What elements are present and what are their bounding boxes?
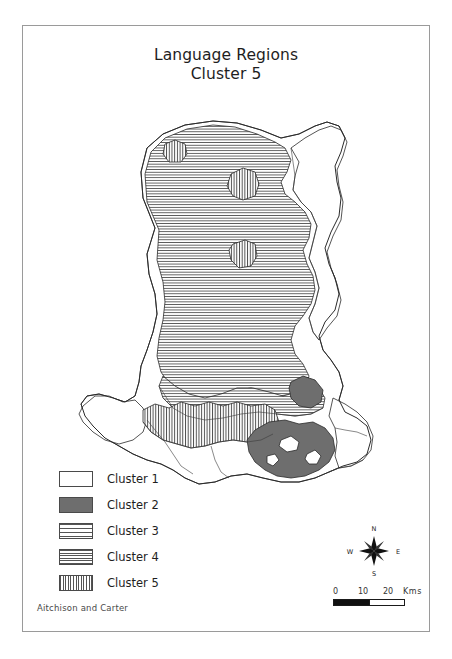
compass-label-east: E [396,548,400,556]
scale-tick-0: 0 [333,587,338,596]
scale-unit-label: Kms [403,587,422,596]
scale-tick-10: 10 [358,587,368,596]
map-legend: Cluster 1 Cluster 2 Cluster 3 Cluster 4 … [59,468,159,598]
compass-rose-icon: N S E W [343,518,405,580]
map-area-south-east-lowland [329,398,373,468]
legend-swatch-cluster-4 [59,549,93,565]
map-credit: Aitchison and Carter [37,603,128,613]
scale-tick-20: 20 [383,587,393,596]
legend-label-cluster-1: Cluster 1 [107,472,159,486]
legend-label-cluster-2: Cluster 2 [107,498,159,512]
map-area-north-coast-enclave [163,140,187,162]
legend-swatch-cluster-3 [59,523,93,539]
legend-item-cluster-1[interactable]: Cluster 1 [59,468,159,490]
legend-item-cluster-4[interactable]: Cluster 4 [59,546,159,568]
compass-label-south: S [372,570,376,578]
legend-item-cluster-3[interactable]: Cluster 3 [59,520,159,542]
legend-swatch-cluster-1 [59,471,93,487]
scale-bar-graphic [333,599,405,606]
scale-bar: 0 10 20 Kms [333,587,423,606]
scale-bar-midpoint-tick [369,600,370,605]
legend-label-cluster-3: Cluster 3 [107,524,159,538]
legend-item-cluster-5[interactable]: Cluster 5 [59,572,159,594]
legend-label-cluster-5: Cluster 5 [107,576,159,590]
scale-bar-filled-segment [334,600,369,605]
legend-swatch-cluster-5 [59,575,93,591]
legend-label-cluster-4: Cluster 4 [107,550,159,564]
compass-label-west: W [347,548,354,556]
map-figure: Language Regions Cluster 5 [22,25,430,632]
map-area-south-pembrokeshire [79,396,147,444]
scale-bar-labels: 0 10 20 Kms [333,587,423,599]
legend-item-cluster-2[interactable]: Cluster 2 [59,494,159,516]
legend-swatch-cluster-2 [59,497,93,513]
compass-label-north: N [372,525,377,533]
